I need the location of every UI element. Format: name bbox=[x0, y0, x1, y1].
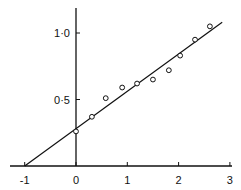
data-point bbox=[166, 68, 171, 73]
data-point bbox=[135, 81, 140, 86]
data-point bbox=[90, 114, 95, 119]
data-point bbox=[151, 77, 156, 82]
x-tick-label: 3 bbox=[227, 174, 233, 186]
x-tick-label: 0 bbox=[73, 174, 79, 186]
x-tick-label: -1 bbox=[20, 174, 30, 186]
data-point bbox=[120, 85, 125, 90]
data-point bbox=[103, 96, 108, 101]
scatter-chart: -101230·51·0 bbox=[0, 0, 241, 190]
y-tick-label: 0·5 bbox=[54, 94, 70, 106]
x-tick-label: 1 bbox=[124, 174, 130, 186]
y-tick-label: 1·0 bbox=[54, 27, 70, 39]
data-point bbox=[178, 53, 183, 58]
data-point bbox=[193, 37, 198, 42]
data-point bbox=[74, 129, 79, 134]
data-point bbox=[207, 24, 212, 29]
x-tick-label: 2 bbox=[176, 174, 182, 186]
